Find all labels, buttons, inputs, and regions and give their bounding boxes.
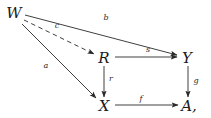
edge-label-a: a	[44, 62, 49, 70]
node-A: A,	[181, 99, 197, 114]
edge-label-c: c	[55, 22, 59, 30]
node-W: W	[6, 6, 21, 21]
edge-a-arrow	[22, 24, 96, 98]
edge-label-b: b	[103, 14, 108, 22]
edge-label-r: r	[109, 75, 113, 83]
commutative-diagram: W R Y X A, b c a s r f g	[0, 0, 211, 118]
node-Y: Y	[182, 51, 192, 66]
edge-label-f: f	[140, 95, 143, 103]
node-R: R	[98, 51, 109, 66]
node-X: X	[99, 99, 110, 114]
edge-label-s: s	[146, 46, 150, 54]
edge-label-g: g	[193, 77, 198, 85]
